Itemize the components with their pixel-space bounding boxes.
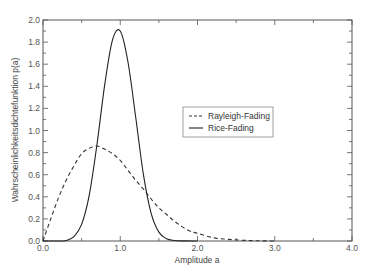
legend-label-rayleigh: Rayleigh-Fading [208,111,270,121]
x-tick-label: 1.0 [114,243,126,253]
y-tick-label: 0.6 [28,170,40,180]
x-tick-label: 4.0 [346,243,358,253]
rayleigh-curve [43,146,275,241]
y-tick-label: 1.2 [28,103,40,113]
legend: Rayleigh-Fading Rice-Fading [183,107,273,137]
y-tick-label: 1.8 [28,37,40,47]
y-tick-label: 1.6 [28,59,40,69]
rice-curve [43,30,198,241]
x-axis-label: Amplitude a [175,255,220,265]
pdf-chart: 0.01.02.03.04.00.00.20.40.60.81.01.21.41… [0,0,368,276]
y-tick-label: 0.8 [28,148,40,158]
y-tick-label: 1.0 [28,126,40,136]
x-tick-label: 2.0 [192,243,204,253]
y-tick-label: 1.4 [28,81,40,91]
y-tick-label: 0.4 [28,192,40,202]
y-tick-label: 0.2 [28,214,40,224]
y-tick-label: 2.0 [28,15,40,25]
y-tick-label: 0.0 [28,236,40,246]
y-axis-label: Wahrscheinlichkeitsdichtefunktion p(a) [10,57,20,202]
legend-label-rice: Rice-Fading [208,123,254,133]
x-tick-label: 3.0 [269,243,281,253]
